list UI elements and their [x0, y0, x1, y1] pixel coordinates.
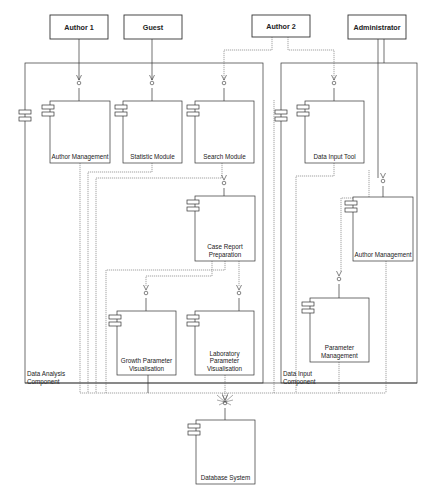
component-label: Search Module [195, 153, 254, 161]
frame-label-data-input: Data InputComponent [283, 370, 316, 385]
frame-label-line: Data Analysis [27, 370, 65, 378]
actor-label: Author 2 [252, 15, 310, 37]
component-label: Statistic Module [123, 153, 182, 161]
interface-lollipop-icon [337, 271, 342, 281]
frame-label-line: Component [27, 378, 65, 386]
component-label: Database System [196, 474, 255, 482]
component-label-line: Data Input Tool [305, 153, 364, 161]
component-label-line: Visualisation [195, 365, 254, 373]
component-label-line: Search Module [195, 153, 254, 161]
interface-lollipop-icon [381, 173, 386, 183]
component-label-line: Parameter [310, 344, 369, 352]
component-label: Case ReportPreparation [195, 243, 255, 258]
component-label-line: Database System [196, 474, 255, 482]
component-label: Growth ParameterVisualisation [117, 357, 176, 372]
component-label-line: Statistic Module [123, 153, 182, 161]
frame-label-line: Data Input [283, 370, 316, 378]
interface-lollipop-icon [222, 75, 227, 85]
component-label-line: Author Management [50, 153, 110, 161]
interface-lollipop-icon [332, 75, 337, 85]
actor-label: Author 1 [50, 15, 108, 39]
component-label-line: Author Management [353, 251, 413, 259]
component-label-line: Management [310, 352, 369, 360]
component-label: ParameterManagement [310, 344, 369, 359]
component-label-line: Growth Parameter [117, 357, 176, 365]
actor-label: Administrator [348, 15, 406, 39]
interface-lollipop-icon [237, 285, 242, 295]
interface-lollipop-icon [144, 285, 149, 295]
component-label-line: Parameter [195, 357, 254, 365]
frame-label-data-analysis: Data AnalysisComponent [27, 370, 65, 385]
component-label-line: Visualisation [117, 365, 176, 373]
interface-lollipop-icon [222, 175, 227, 185]
component-label: Author Management [50, 153, 110, 161]
component-label-line: Case Report [195, 243, 255, 251]
component-label-line: Laboratory [195, 350, 254, 358]
component-label: LaboratoryParameterVisualisation [195, 350, 254, 373]
frame-label-line: Component [283, 378, 316, 386]
component-label: Data Input Tool [305, 153, 364, 161]
component-label: Author Management [353, 251, 413, 259]
actor-label: Guest [124, 15, 182, 39]
component-label-line: Preparation [195, 251, 255, 259]
